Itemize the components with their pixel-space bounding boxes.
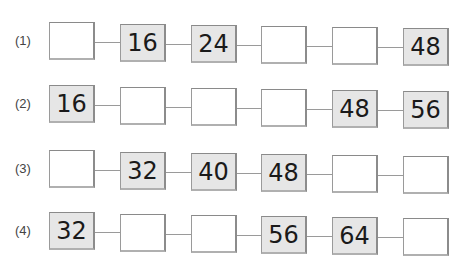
problem-row-4: (4)325664 [0, 212, 461, 262]
connector-line [378, 110, 403, 111]
answer-box[interactable] [261, 26, 307, 64]
problem-label: (4) [15, 223, 31, 238]
given-number-box: 16 [49, 85, 95, 123]
answer-box[interactable] [49, 150, 95, 188]
given-number-box: 56 [403, 91, 449, 129]
given-number-box: 64 [332, 217, 378, 255]
given-number-box: 32 [120, 152, 166, 190]
given-number-box: 16 [120, 24, 166, 62]
connector-line [166, 44, 191, 45]
connector-line [95, 42, 120, 43]
given-number-box: 24 [191, 25, 237, 63]
connector-line [237, 173, 261, 174]
connector-line [166, 172, 191, 173]
answer-box[interactable] [403, 218, 449, 256]
problem-label: (3) [15, 161, 31, 176]
connector-line [307, 236, 332, 237]
answer-box[interactable] [332, 155, 378, 193]
answer-box[interactable] [261, 89, 307, 127]
connector-line [95, 170, 120, 171]
given-number-box: 48 [261, 154, 307, 192]
given-number-box: 56 [261, 216, 307, 254]
problem-row-1: (1)162448 [0, 22, 461, 72]
connector-line [95, 232, 120, 233]
connector-line [307, 174, 332, 175]
connector-line [378, 47, 403, 48]
given-number-box: 40 [191, 153, 237, 191]
connector-line [237, 108, 261, 109]
connector-line [307, 109, 332, 110]
connector-line [237, 45, 261, 46]
problem-row-3: (3)324048 [0, 150, 461, 200]
connector-line [378, 175, 403, 176]
problem-row-2: (2)164856 [0, 85, 461, 135]
given-number-box: 48 [403, 28, 449, 66]
given-number-box: 32 [49, 212, 95, 250]
answer-box[interactable] [403, 156, 449, 194]
connector-line [95, 105, 120, 106]
answer-box[interactable] [120, 214, 166, 252]
answer-box[interactable] [191, 215, 237, 253]
problem-label: (1) [15, 33, 31, 48]
answer-box[interactable] [49, 22, 95, 60]
connector-line [307, 46, 332, 47]
connector-line [237, 235, 261, 236]
answer-box[interactable] [120, 87, 166, 125]
given-number-box: 48 [332, 90, 378, 128]
answer-box[interactable] [191, 88, 237, 126]
connector-line [166, 107, 191, 108]
answer-box[interactable] [332, 27, 378, 65]
problem-label: (2) [15, 96, 31, 111]
connector-line [166, 234, 191, 235]
connector-line [378, 237, 403, 238]
